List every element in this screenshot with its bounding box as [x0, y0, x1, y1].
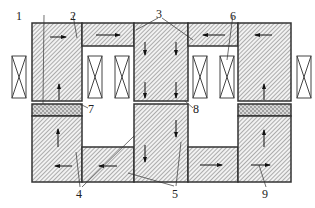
- coil-icon: [220, 56, 234, 98]
- label-9: 9: [262, 188, 268, 200]
- label-4: 4: [76, 188, 82, 200]
- center-upper-block: [134, 23, 188, 101]
- core-diagram: [0, 0, 315, 208]
- label-7: 7: [88, 103, 94, 115]
- lower-core: [32, 104, 291, 182]
- upper-core: [32, 23, 291, 101]
- right-lower-block: [238, 116, 291, 182]
- left-magnet-band: [32, 104, 82, 116]
- label-2: 2: [70, 10, 76, 22]
- right-magnet-band: [238, 104, 291, 116]
- label-6: 6: [230, 10, 236, 22]
- center-lower-block: [134, 104, 188, 182]
- lower-left-bridge: [82, 147, 134, 182]
- coil-icon: [12, 56, 26, 98]
- label-1: 1: [16, 10, 22, 22]
- label-8: 8: [193, 103, 199, 115]
- coil-icon: [115, 56, 129, 98]
- coil-icon: [297, 56, 311, 98]
- coil-icon: [88, 56, 102, 98]
- label-3: 3: [156, 8, 162, 20]
- left-upper-block: [32, 23, 82, 101]
- label-5: 5: [172, 188, 178, 200]
- left-lower-block: [32, 116, 82, 182]
- coil-icon: [193, 56, 207, 98]
